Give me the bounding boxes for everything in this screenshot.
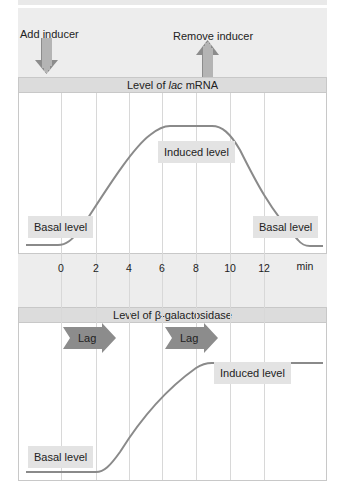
bottom-induced-level: Induced level: [214, 362, 291, 384]
tick-6: 6: [150, 262, 174, 274]
top-induced-level: Induced level: [158, 141, 235, 163]
tick-10: 10: [218, 262, 242, 274]
lag-label-2: Lag: [180, 332, 198, 344]
tick-0: 0: [49, 262, 73, 274]
bottom-basal-level: Basal level: [28, 446, 93, 468]
tick-12: 12: [252, 262, 276, 274]
tick-4: 4: [117, 262, 141, 274]
diagram-graphics: [0, 0, 341, 496]
tick-2: 2: [84, 262, 108, 274]
down-arrow-icon: [35, 38, 58, 74]
top-basal-level-left: Basal level: [28, 216, 93, 238]
tick-8: 8: [184, 262, 208, 274]
up-arrow-icon: [196, 40, 219, 77]
lag-label-1: Lag: [78, 332, 96, 344]
axis-unit: min: [290, 260, 320, 272]
top-basal-level-right: Basal level: [253, 216, 318, 238]
